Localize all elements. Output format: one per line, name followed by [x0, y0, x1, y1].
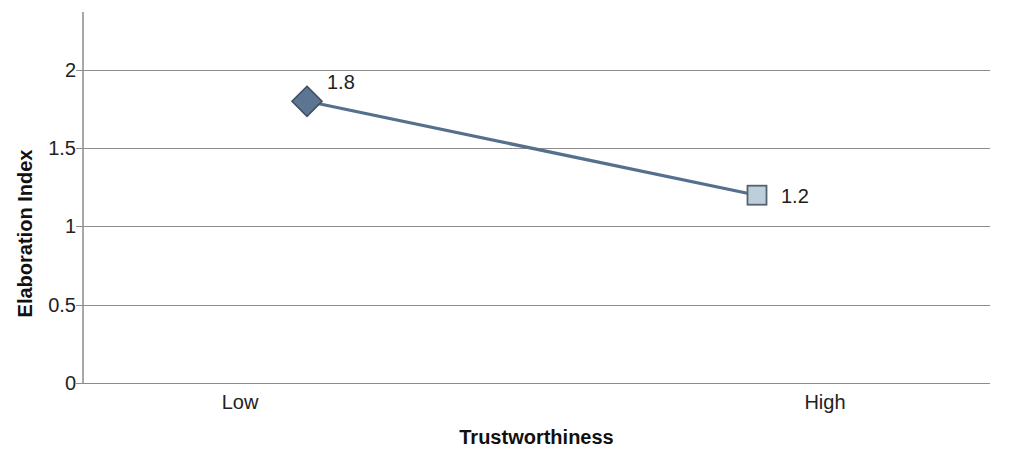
data-label-high: 1.2 [781, 186, 809, 206]
x-tick-label-low: Low [222, 392, 259, 412]
y-tick-mark-0-5 [76, 305, 84, 306]
x-axis-title: Trustworthiness [83, 427, 990, 447]
x-tick-label-high: High [804, 392, 845, 412]
y-tick-mark-1 [76, 226, 84, 227]
y-axis-title-wrapper: Elaboration Index [10, 0, 40, 467]
gridline-1-5 [83, 148, 990, 149]
gridline-0-5 [83, 305, 990, 306]
gridline-1 [83, 226, 990, 227]
y-tick-mark-2 [76, 70, 84, 71]
chart-canvas: 2 1.5 1 0.5 0 Elaboration Index Low High… [0, 0, 1012, 467]
gridline-2 [83, 70, 990, 71]
data-label-low: 1.8 [327, 72, 355, 92]
y-axis-title: Elaboration Index [10, 0, 40, 467]
y-tick-mark-0 [76, 383, 84, 384]
y-tick-mark-1-5 [76, 148, 84, 149]
plot-area [83, 70, 990, 383]
gridline-0 [83, 383, 990, 384]
